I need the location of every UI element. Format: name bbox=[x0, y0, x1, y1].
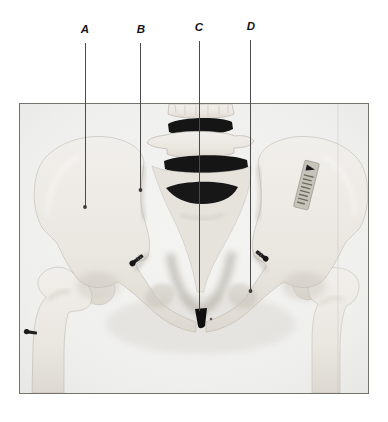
label-d: D bbox=[247, 20, 256, 33]
pelvis-photo bbox=[20, 104, 368, 393]
figure-canvas: A B C D bbox=[0, 0, 388, 422]
label-b: B bbox=[137, 23, 146, 36]
label-c: C bbox=[195, 21, 204, 34]
photo-frame bbox=[19, 103, 369, 394]
label-a: A bbox=[81, 23, 90, 36]
